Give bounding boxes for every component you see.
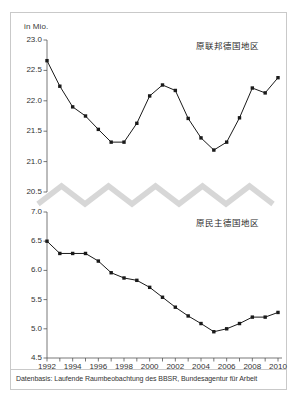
x-tick-label-1998: 1998 [111,362,137,371]
y-axis-unit-label: in Mio. [24,22,48,31]
source-note: Datenbasis: Laufende Raumbeobachtung des… [16,375,257,382]
data-point-lower-2008 [251,315,254,318]
data-point-lower-2001 [161,296,164,299]
axis-break-zigzag [38,186,273,204]
series-line-upper [47,61,278,150]
y-tick-label-lower-3: 5.5 [14,295,42,304]
y-tick-label-lower-5: 4.5 [14,353,42,362]
data-point-upper-2007 [238,116,241,119]
x-tick-label-2008: 2008 [239,362,265,371]
data-point-upper-2008 [251,86,254,89]
data-point-lower-2004 [199,322,202,325]
data-point-upper-1992 [45,59,48,62]
data-point-lower-2009 [263,315,266,318]
data-point-lower-2005 [212,330,215,333]
data-point-upper-2003 [186,117,189,120]
series-label-east: 原民主德国地区 [196,216,259,228]
y-tick-label-lower-2: 6.0 [14,265,42,274]
data-point-upper-1998 [122,140,125,143]
data-point-upper-1995 [84,114,87,117]
data-point-upper-2010 [276,76,279,79]
data-point-upper-1997 [109,140,112,143]
y-tick-label-upper-3: 21.5 [14,126,42,135]
y-tick-label-lower-0: 7.0 [14,207,42,216]
data-point-lower-1998 [122,276,125,279]
x-tick-label-2000: 2000 [137,362,163,371]
y-tick-label-upper-1: 22.5 [14,65,42,74]
data-point-upper-1993 [58,85,61,88]
y-tick-label-upper-5: 20.5 [14,187,42,196]
data-point-upper-1994 [71,105,74,108]
data-point-upper-2002 [174,89,177,92]
x-tick-label-2004: 2004 [188,362,214,371]
y-tick-label-upper-0: 23.0 [14,35,42,44]
data-point-lower-1993 [58,252,61,255]
data-point-upper-1996 [97,128,100,131]
data-point-upper-2004 [199,136,202,139]
x-tick-label-2010: 2010 [265,362,291,371]
data-point-lower-1999 [135,279,138,282]
x-tick-label-1992: 1992 [34,362,60,371]
data-point-lower-2002 [174,305,177,308]
data-point-lower-1996 [97,259,100,262]
data-point-lower-2010 [276,311,279,314]
data-point-upper-2005 [212,148,215,151]
data-point-lower-2007 [238,322,241,325]
data-point-lower-1992 [45,240,48,243]
data-point-upper-1999 [135,122,138,125]
x-tick-label-2002: 2002 [162,362,188,371]
series-label-west: 原联邦德国地区 [196,39,259,51]
data-point-lower-2000 [148,286,151,289]
y-tick-label-lower-4: 5.0 [14,324,42,333]
data-point-lower-2003 [186,314,189,317]
data-point-upper-2006 [225,140,228,143]
y-tick-label-upper-2: 22.0 [14,96,42,105]
x-tick-label-1994: 1994 [60,362,86,371]
y-tick-label-lower-1: 6.5 [14,236,42,245]
data-point-upper-2001 [161,83,164,86]
series-line-lower [47,241,278,332]
y-tick-label-upper-4: 21.0 [14,157,42,166]
data-point-upper-2000 [148,94,151,97]
x-tick-label-1996: 1996 [85,362,111,371]
data-point-lower-1995 [84,252,87,255]
chart-canvas [0,0,298,400]
data-point-upper-2009 [263,91,266,94]
x-tick-label-2006: 2006 [214,362,240,371]
data-point-lower-2006 [225,327,228,330]
data-point-lower-1994 [71,252,74,255]
data-point-lower-1997 [109,271,112,274]
